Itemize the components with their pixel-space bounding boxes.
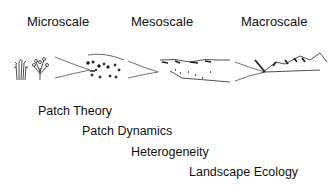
mesoscale-terrain-icon [160, 59, 230, 82]
concept-heterogeneity: Heterogeneity [131, 145, 209, 159]
scale-illustration [0, 0, 329, 100]
concept-patch-dynamics: Patch Dynamics [82, 124, 172, 138]
macroscale-mountain-icon [255, 53, 327, 73]
concept-landscape-ecology: Landscape Ecology [189, 165, 298, 179]
concept-patch-theory: Patch Theory [38, 104, 112, 118]
microscale-plants-icon [14, 58, 49, 81]
mesoscale-patch-icon [87, 54, 124, 78]
zoom-funnel-lines [55, 57, 265, 81]
